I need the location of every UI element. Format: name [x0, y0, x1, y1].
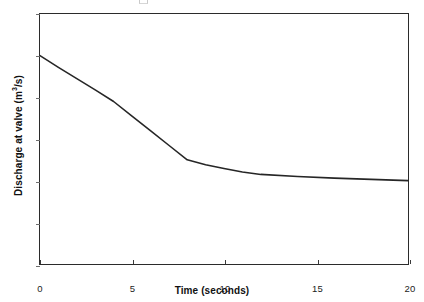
y-axis-title: Discharge at valve (m3/s): [13, 16, 24, 256]
y-axis-title-suffix: /s): [13, 75, 24, 87]
clipped-caption-artifact: [139, 0, 148, 4]
plot-area: 0123456 05101520: [39, 13, 409, 265]
y-axis-title-exponent: 3: [11, 87, 18, 91]
x-tick-label: 20: [395, 284, 424, 294]
chart-figure: Discharge at valve (m3/s) Time (seconds)…: [0, 0, 424, 302]
x-tick-label: 5: [118, 284, 148, 294]
discharge-series-line: [40, 56, 408, 181]
y-tick-mark: [36, 266, 40, 267]
y-axis-title-prefix: Discharge at valve (m: [13, 91, 24, 196]
x-tick-label: 10: [210, 284, 240, 294]
x-tick-label: 15: [303, 284, 333, 294]
series-svg: [40, 14, 408, 264]
x-tick-label: 0: [25, 284, 55, 294]
x-tick-mark: [410, 260, 411, 264]
